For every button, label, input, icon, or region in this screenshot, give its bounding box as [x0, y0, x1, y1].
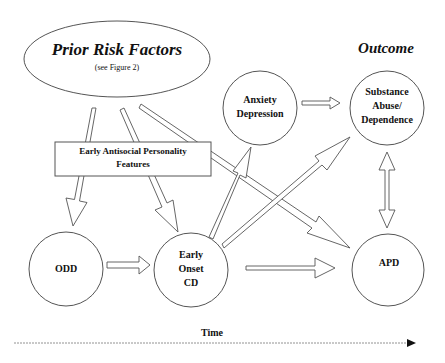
substance-label-line1: Substance: [350, 86, 424, 98]
arrow-anxiety-to-substance: [302, 97, 340, 109]
apd-circle: [352, 234, 424, 306]
time-label: Time: [182, 327, 242, 339]
anxiety-label-line2: Depression: [223, 108, 297, 120]
arrow-substance-apd-bidirectional: [379, 152, 395, 228]
early-cd-label-line1: Early: [154, 249, 228, 261]
time-axis-arrowhead: [407, 339, 416, 347]
early-antisocial-line1: Early Antisocial Personality: [55, 146, 211, 156]
arrow-cd-to-apd: [246, 258, 335, 278]
early-cd-label-line3: CD: [154, 277, 228, 289]
substance-label-line3: Dependence: [350, 114, 424, 126]
early-antisocial-line2: Features: [55, 159, 211, 169]
early-cd-label-line2: Onset: [154, 263, 228, 275]
apd-label: APD: [352, 257, 426, 269]
odd-label: ODD: [29, 263, 103, 275]
outcome-heading: Outcome: [336, 40, 436, 57]
prior-risk-subtitle: (see Figure 2): [24, 63, 210, 72]
anxiety-label-line1: Anxiety: [223, 94, 297, 106]
prior-risk-title: Prior Risk Factors: [24, 40, 210, 60]
arrow-odd-to-cd: [107, 256, 150, 274]
substance-label-line2: Abuse/: [350, 100, 424, 112]
